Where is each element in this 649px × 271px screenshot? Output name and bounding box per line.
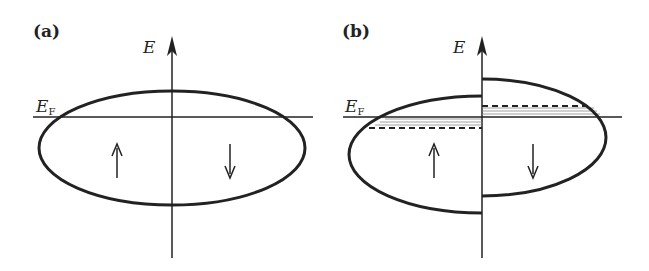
panel-b-label: (b) bbox=[342, 21, 370, 41]
panel-b: (b) E EF bbox=[342, 21, 622, 258]
panel-a-label: (a) bbox=[33, 21, 60, 41]
diagram-canvas: (a) E EF (b) E bbox=[0, 0, 649, 271]
spin-up-band bbox=[349, 96, 482, 213]
fermi-level-label: EF bbox=[35, 96, 55, 117]
spin-down-band bbox=[482, 79, 606, 196]
spin-down-shaded-region bbox=[482, 108, 600, 114]
energy-axis-label: E bbox=[142, 37, 156, 57]
energy-axis-label: E bbox=[452, 37, 466, 57]
spin-up-shaded-region bbox=[375, 119, 482, 125]
fermi-level-label: EF bbox=[344, 96, 364, 117]
panel-a: (a) E EF bbox=[33, 21, 313, 258]
